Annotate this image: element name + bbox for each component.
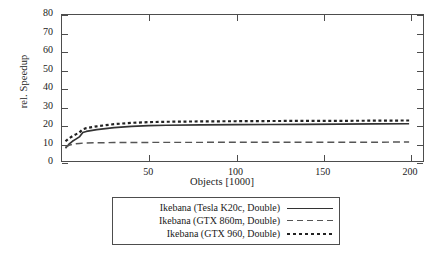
x-axis-tick xyxy=(411,15,412,21)
y-axis-tick-label: 80 xyxy=(0,7,53,18)
y-axis-tick xyxy=(417,145,423,146)
y-axis-tick-label: 40 xyxy=(0,81,53,92)
x-axis-tick xyxy=(324,15,325,21)
series-line xyxy=(65,142,409,147)
series-line xyxy=(65,124,409,148)
y-axis-tick-label: 60 xyxy=(0,44,53,55)
y-axis-tick xyxy=(417,52,423,53)
plot-curves xyxy=(62,15,423,161)
y-axis-tick xyxy=(62,34,68,35)
x-axis-tick xyxy=(149,15,150,21)
y-axis-tick xyxy=(417,89,423,90)
chart-figure: rel. Speedup 01020304050607080 501001502… xyxy=(0,0,444,253)
y-axis-tick-label: 70 xyxy=(0,26,53,37)
legend-item: Ikebana (GTX 860m, Double) xyxy=(119,214,333,227)
y-axis-tick xyxy=(417,163,423,164)
y-axis-tick xyxy=(417,126,423,127)
legend-line-sample-solid xyxy=(287,203,333,213)
x-axis-tick xyxy=(411,155,412,161)
y-axis-tick xyxy=(62,108,68,109)
legend-label: Ikebana (Tesla K20c, Double) xyxy=(119,202,287,213)
y-axis-tick-label: 50 xyxy=(0,63,53,74)
y-axis-tick-label: 0 xyxy=(0,155,53,166)
y-axis-tick xyxy=(417,108,423,109)
y-axis-tick xyxy=(62,145,68,146)
y-axis-tick xyxy=(62,126,68,127)
legend-item: Ikebana (GTX 960, Double) xyxy=(119,227,333,240)
y-axis-tick xyxy=(417,34,423,35)
y-axis-tick-label: 10 xyxy=(0,137,53,148)
x-axis-tick xyxy=(324,155,325,161)
legend-label: Ikebana (GTX 860m, Double) xyxy=(119,215,287,226)
y-axis-tick-label: 30 xyxy=(0,100,53,111)
y-axis-tick xyxy=(62,15,68,16)
legend-label: Ikebana (GTX 960, Double) xyxy=(119,228,287,239)
y-axis-tick xyxy=(417,15,423,16)
x-axis-tick xyxy=(237,15,238,21)
y-axis-tick xyxy=(417,71,423,72)
plot-area xyxy=(61,14,424,162)
legend-line-sample-dotted xyxy=(287,229,333,239)
y-axis-tick xyxy=(62,89,68,90)
legend-item: Ikebana (Tesla K20c, Double) xyxy=(119,201,333,214)
x-axis-title: Objects [1000] xyxy=(0,176,444,187)
legend-line-sample-dashed xyxy=(287,216,333,226)
y-axis-tick xyxy=(62,163,68,164)
x-axis-tick xyxy=(149,155,150,161)
y-axis-tick xyxy=(62,52,68,53)
y-axis-tick-label: 20 xyxy=(0,118,53,129)
x-axis-tick xyxy=(237,155,238,161)
chart-legend: Ikebana (Tesla K20c, Double) Ikebana (GT… xyxy=(112,197,340,245)
y-axis-tick xyxy=(62,71,68,72)
